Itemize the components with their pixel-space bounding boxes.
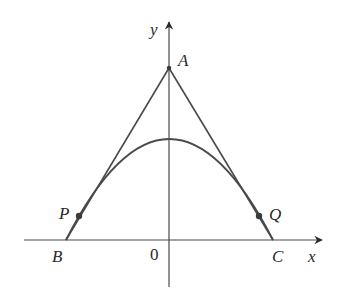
origin-label: 0 [150, 245, 159, 264]
label-C: C [272, 247, 284, 266]
label-A: A [177, 51, 189, 70]
label-B: B [52, 247, 63, 266]
x-axis-label: x [307, 247, 316, 266]
point-A [167, 66, 171, 70]
parabola-diagram: y A P Q B 0 C x [0, 0, 343, 298]
point-P [76, 213, 82, 219]
y-axis-label: y [148, 20, 158, 39]
point-Q [256, 213, 262, 219]
label-P: P [58, 204, 69, 223]
label-Q: Q [269, 205, 281, 224]
